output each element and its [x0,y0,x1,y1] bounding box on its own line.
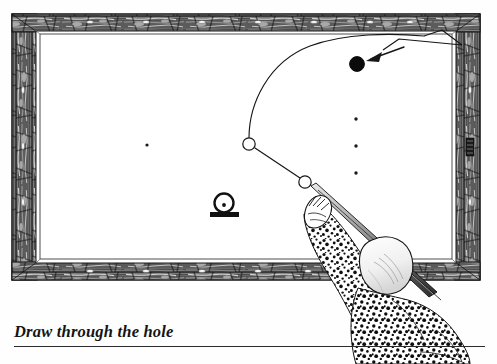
cue-ball-at-rest [299,176,311,188]
caption-rule [14,346,485,347]
patterned-jacket [351,288,470,364]
player-head [360,237,413,294]
spot-right-middle [354,144,357,147]
spot-left [145,143,148,146]
rail-plate [466,138,474,156]
figure-caption: Draw through the hole [14,322,174,342]
hole-ring [215,194,234,213]
hole-center-dot [222,203,226,207]
spot-right-upper [354,117,357,120]
illustration-stage [0,0,497,364]
object-ball [350,57,365,72]
cue-ball-contact-point [243,138,255,150]
hole-base [210,212,239,217]
billiards-illustration [0,0,497,364]
spot-right-lower [354,171,357,174]
